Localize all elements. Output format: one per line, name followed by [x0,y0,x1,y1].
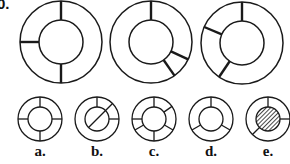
inner-circle [199,107,223,131]
sequence-figure-1 [20,1,102,83]
figure-canvas [0,0,290,164]
inner-circle [28,107,52,131]
option-label-c[interactable]: c. [139,143,169,160]
option-figure-c[interactable] [132,97,176,141]
hatched-inner-circle [256,107,280,131]
answer-option-figures [18,97,290,141]
sequence-figure-3 [201,2,283,84]
option-figure-d[interactable] [189,97,233,141]
sequence-figure-2 [110,1,192,83]
option-figure-b[interactable] [75,97,119,141]
option-label-e[interactable]: e. [253,143,283,160]
option-label-b[interactable]: b. [82,143,112,160]
option-label-d[interactable]: d. [196,143,226,160]
inner-circle [142,107,166,131]
option-label-a[interactable]: a. [25,143,55,160]
inner-circle [39,20,83,64]
option-figure-a[interactable] [18,97,62,141]
inner-circle [220,21,264,65]
sequence-figures [20,1,283,84]
option-figure-e[interactable] [246,97,290,141]
inner-circle [129,20,173,64]
